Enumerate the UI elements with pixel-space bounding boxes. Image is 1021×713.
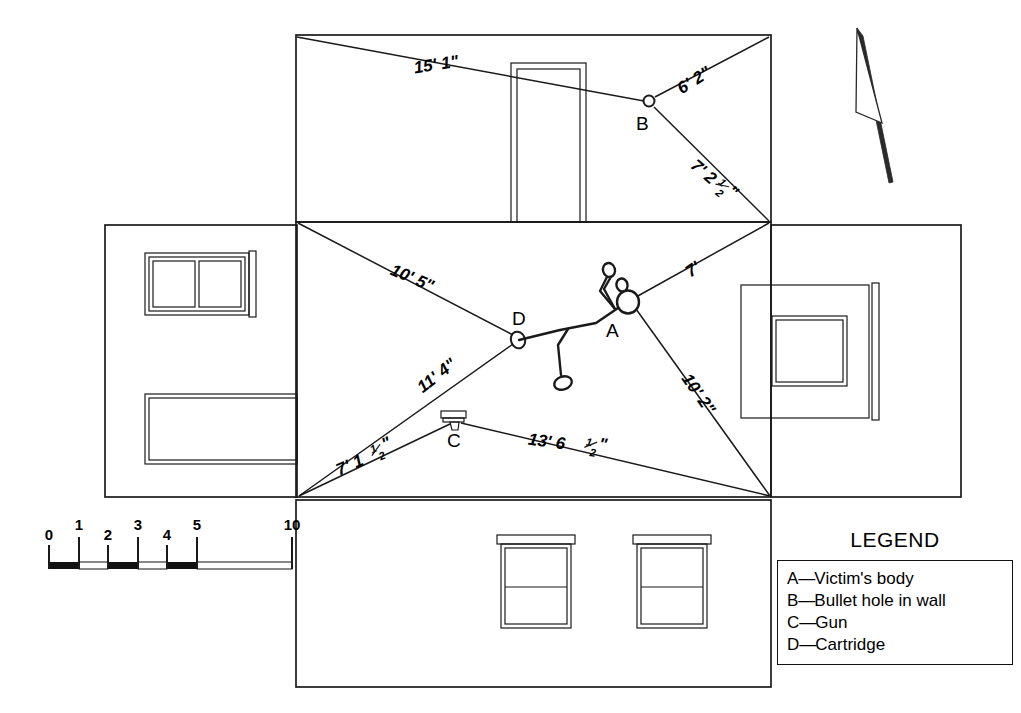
legend-title: LEGEND [777,528,1013,552]
svg-text:": " [598,434,610,454]
scale-tick-10: 10 [284,516,301,533]
marker-c-gun[interactable]: C [441,411,466,451]
bottom-wall-panel [296,500,771,687]
legend-key-c: C [787,613,799,632]
north-arrow-icon [856,28,893,183]
svg-text:13' 6: 13' 6 [527,430,567,454]
legend-key-a: A [787,569,798,588]
marker-d[interactable]: D [509,308,528,350]
scale-tick-5: 5 [193,516,201,533]
legend-dash-a: — [798,569,814,588]
right-wall-panel [741,225,961,497]
scale-tick-0: 0 [45,526,53,543]
center-floor-plan [296,222,771,497]
measurement-7-1-half: 7' 1 1 2 " [331,433,397,481]
scale-tick-4: 4 [163,526,172,543]
legend-text-a: Victim's body [814,569,913,588]
legend-text-c: Gun [815,613,847,632]
measurement-10-5: 10' 5" [388,260,438,296]
legend: LEGEND A—Victim's body B—Bullet hole in … [777,528,1013,665]
marker-c-label: C [447,430,461,451]
scale-bar: 0 1 2 3 4 5 10 [45,516,301,569]
legend-box: A—Victim's body B—Bullet hole in wall C—… [777,560,1013,665]
legend-dash-b: — [798,591,814,610]
top-wall-panel [296,35,771,222]
scale-tick-3: 3 [134,516,142,533]
legend-row-c: C—Gun [787,612,1003,634]
legend-text-b: Bullet hole in wall [814,591,945,610]
legend-row-d: D—Cartridge [787,634,1003,656]
legend-key-d: D [787,635,799,654]
victim-body[interactable]: A [519,262,639,392]
marker-d-label: D [512,308,526,329]
scale-tick-2: 2 [104,526,112,543]
svg-text:7' 1: 7' 1 [333,451,366,480]
legend-key-b: B [787,591,798,610]
marker-b-label: B [636,113,649,134]
marker-a-label: A [606,320,619,341]
legend-row-b: B—Bullet hole in wall [787,590,1003,612]
legend-row-a: A—Victim's body [787,568,1003,590]
scale-tick-1: 1 [75,516,83,533]
legend-text-d: Cartridge [815,635,885,654]
left-wall-panel [105,225,297,497]
legend-dash-c: — [799,613,815,632]
measurement-11-4: 11' 4" [413,354,460,397]
legend-dash-d: — [799,635,815,654]
crime-scene-sketch: B D A C [0,0,1021,713]
measurement-10-2: 10' 2" [678,370,720,419]
